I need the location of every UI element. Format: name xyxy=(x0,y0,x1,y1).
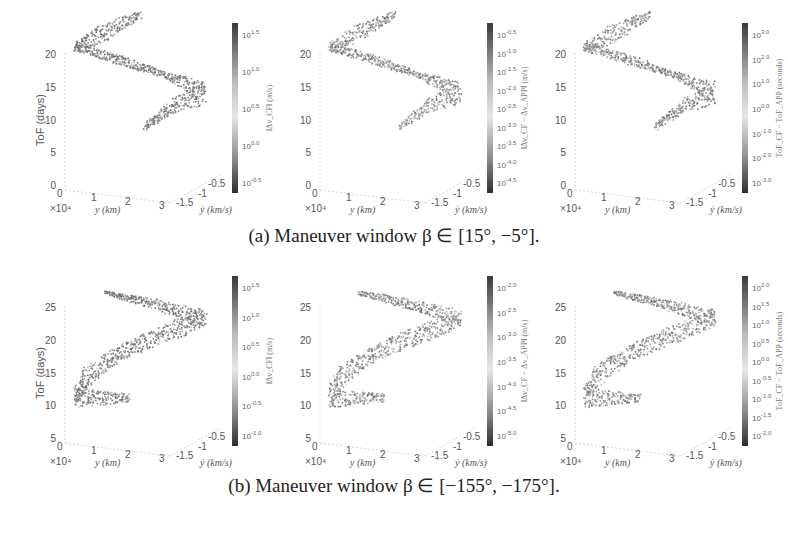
z-tick: 10 xyxy=(45,400,57,411)
y-axis-label: ẏ (km/s) xyxy=(199,457,233,469)
colorbar xyxy=(232,276,238,446)
colorbar-tick: 101.0 xyxy=(752,319,770,330)
z-tick: 15 xyxy=(300,82,312,93)
y-axis-label: ẏ (km/s) xyxy=(454,204,488,216)
colorbar-tick: 100.5 xyxy=(752,338,770,349)
scatter-3d-plot: 051015200123×10⁴y (km)-1.5-1-0.5ẏ (km/s)… xyxy=(0,5,262,220)
x-axis-label: y (km) xyxy=(604,457,631,469)
x-tick: 1 xyxy=(346,192,352,203)
colorbar-tick: 100.0 xyxy=(752,103,770,114)
panel-b2: 5101520250123×10⁴y (km)-1.5-1-0.5ẏ (km/s… xyxy=(255,258,517,473)
z-tick: 25 xyxy=(45,302,57,313)
z-tick: 5 xyxy=(560,433,566,444)
z-axis-label: ToF (days) xyxy=(34,94,46,146)
z-tick: 15 xyxy=(555,368,567,379)
z-tick: 25 xyxy=(300,302,312,313)
colorbar-tick: 101.5 xyxy=(752,301,770,312)
colorbar-tick: 103.0 xyxy=(752,29,770,40)
colorbar-label: ToF_CF − ToF_APP (seconds) xyxy=(775,311,784,410)
scatter-points xyxy=(73,11,207,130)
scatter-points xyxy=(583,11,716,131)
x-tick: 0 xyxy=(57,188,63,199)
x-tick: 3 xyxy=(414,200,420,211)
y-tick: -1.5 xyxy=(686,450,704,461)
y-tick: -0.5 xyxy=(463,431,481,442)
z-tick: 0 xyxy=(50,180,56,191)
x-tick: 2 xyxy=(635,449,641,460)
y-tick: -1 xyxy=(708,441,717,452)
panel-b3: 5101520250123×10⁴y (km)-1.5-1-0.5ẏ (km/s… xyxy=(510,258,772,473)
scatter-points xyxy=(328,11,463,131)
y-axis-label: ẏ (km/s) xyxy=(454,457,488,469)
z-tick: 5 xyxy=(305,147,311,158)
z-tick: 0 xyxy=(560,180,566,191)
x-tick: 0 xyxy=(567,188,573,199)
x-tick: 1 xyxy=(346,445,352,456)
z-tick: 10 xyxy=(300,400,312,411)
scatter-3d-plot: 051015200123×10⁴y (km)-1.5-1-0.5ẏ (km/s)… xyxy=(255,5,517,220)
y-tick: -0.5 xyxy=(718,178,736,189)
x-tick: 3 xyxy=(669,453,675,464)
z-tick: 15 xyxy=(300,368,312,379)
colorbar xyxy=(742,23,748,193)
colorbar-tick: 10-3.0 xyxy=(752,177,772,188)
x-tick: 0 xyxy=(57,441,63,452)
colorbar xyxy=(487,23,493,193)
x-tick: 3 xyxy=(159,200,165,211)
z-tick: 25 xyxy=(555,302,567,313)
z-tick: 10 xyxy=(555,400,567,411)
x-tick: 1 xyxy=(91,192,97,203)
x-multiplier: ×10⁴ xyxy=(560,203,581,214)
colorbar-tick: 100.0 xyxy=(752,356,770,367)
y-tick: -0.5 xyxy=(463,178,481,189)
z-tick: 5 xyxy=(50,433,56,444)
colorbar-tick: 10-2.0 xyxy=(752,152,772,163)
z-tick: 5 xyxy=(305,433,311,444)
panel-a3: 051015200123×10⁴y (km)-1.5-1-0.5ẏ (km/s)… xyxy=(510,5,772,220)
y-axis-label: ẏ (km/s) xyxy=(709,457,743,469)
x-tick: 3 xyxy=(414,453,420,464)
x-tick: 2 xyxy=(125,449,131,460)
scatter-points xyxy=(328,291,462,408)
scatter-3d-plot: 5101520250123×10⁴y (km)-1.5-1-0.5ẏ (km/s… xyxy=(510,258,772,473)
y-tick: -1.5 xyxy=(431,197,449,208)
z-tick: 20 xyxy=(300,49,312,60)
colorbar-tick: 102.0 xyxy=(752,282,770,293)
colorbar-tick: 101.0 xyxy=(752,78,770,89)
colorbar-tick: 10-2.0 xyxy=(752,430,772,441)
colorbar-tick: 10-1.5 xyxy=(752,412,772,423)
scatter-points xyxy=(583,290,717,408)
x-axis-label: y (km) xyxy=(349,457,376,469)
z-tick: 15 xyxy=(555,82,567,93)
x-tick: 2 xyxy=(380,196,386,207)
z-tick: 5 xyxy=(560,147,566,158)
z-tick: 10 xyxy=(45,115,57,126)
y-tick: -1 xyxy=(453,188,462,199)
colorbar-tick: 10-0.5 xyxy=(752,375,772,386)
x-axis-label: y (km) xyxy=(94,204,121,216)
z-tick: 5 xyxy=(50,147,56,158)
y-axis-label: ẏ (km/s) xyxy=(199,204,233,216)
z-tick: 15 xyxy=(45,368,57,379)
z-tick: 15 xyxy=(45,82,57,93)
y-tick: -1.5 xyxy=(431,450,449,461)
panel-b1: 5101520250123×10⁴y (km)-1.5-1-0.5ẏ (km/s… xyxy=(0,258,262,473)
y-axis-label: ẏ (km/s) xyxy=(709,204,743,216)
colorbar xyxy=(487,276,493,446)
y-tick: -0.5 xyxy=(718,431,736,442)
x-tick: 1 xyxy=(601,445,607,456)
colorbar xyxy=(232,23,238,193)
colorbar-tick: 102.0 xyxy=(752,54,770,65)
panel-a2: 051015200123×10⁴y (km)-1.5-1-0.5ẏ (km/s)… xyxy=(255,5,517,220)
x-multiplier: ×10⁴ xyxy=(560,456,581,467)
x-tick: 2 xyxy=(635,196,641,207)
y-tick: -0.5 xyxy=(208,178,226,189)
y-tick: -1 xyxy=(198,441,207,452)
z-tick: 0 xyxy=(305,180,311,191)
colorbar-tick: 10-1.0 xyxy=(752,393,772,404)
x-multiplier: ×10⁴ xyxy=(50,456,71,467)
z-tick: 20 xyxy=(300,335,312,346)
scatter-3d-plot: 5101520250123×10⁴y (km)-1.5-1-0.5ẏ (km/s… xyxy=(255,258,517,473)
colorbar-label: ToF_CF − ToF_APP (seconds) xyxy=(775,58,784,157)
x-tick: 1 xyxy=(91,445,97,456)
